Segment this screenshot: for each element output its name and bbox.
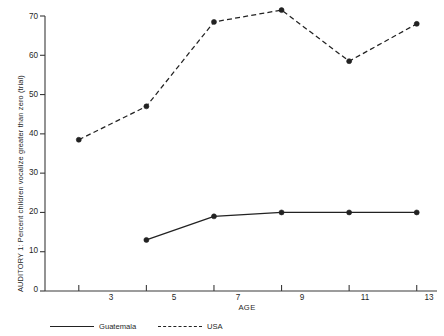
data-point-guatemala-age-9	[279, 210, 284, 215]
y-tick-label-50: 50	[16, 90, 38, 99]
series-line-guatemala	[144, 210, 419, 243]
legend-label-guatemala: Guatemala	[99, 322, 136, 331]
y-tick-label-10: 10	[16, 246, 38, 255]
legend-swatch-solid-icon	[50, 326, 94, 327]
y-tick-label-40: 40	[16, 129, 38, 138]
data-point-usa-age-7	[211, 19, 216, 24]
data-point-guatemala-age-5	[144, 237, 149, 242]
data-point-guatemala-age-11	[347, 210, 352, 215]
y-tick-label-30: 30	[16, 168, 38, 177]
y-axis-label: AUDITORY 1: Percent children vocalize gr…	[16, 75, 25, 292]
y-axis-ticks	[40, 16, 45, 291]
y-tick-label-60: 60	[16, 51, 38, 60]
y-axis-label-area: AUDITORY 1: Percent children vocalize gr…	[0, 0, 24, 300]
x-tick-label-7: 7	[228, 293, 248, 302]
data-point-guatemala-age-7	[211, 214, 216, 219]
data-point-usa-age-11	[347, 59, 352, 64]
legend-swatch-dashed-icon	[158, 326, 202, 327]
legend-item-usa[interactable]: USA	[158, 320, 223, 332]
x-tick-label-5: 5	[164, 293, 184, 302]
axis-lines	[45, 16, 437, 291]
data-point-usa-age-5	[144, 104, 149, 109]
data-point-usa-age-13	[414, 21, 419, 26]
chart-legend: Guatemala USA	[40, 320, 420, 334]
data-point-guatemala-age-13	[414, 210, 419, 215]
line-path-usa	[79, 10, 417, 140]
plot-area	[0, 0, 444, 336]
x-tick-label-11: 11	[355, 293, 375, 302]
x-axis-label: AGE	[217, 303, 277, 312]
line-path-guatemala	[146, 212, 416, 240]
data-point-usa-age-9	[279, 8, 284, 13]
y-tick-label-70: 70	[16, 12, 38, 21]
legend-item-guatemala[interactable]: Guatemala	[50, 320, 136, 332]
series-line-usa	[76, 8, 419, 143]
x-tick-label-13: 13	[419, 293, 439, 302]
y-tick-label-20: 20	[16, 207, 38, 216]
chart-container: AUDITORY 1: Percent children vocalize gr…	[0, 0, 444, 336]
x-tick-label-9: 9	[292, 293, 312, 302]
x-axis-ticks	[79, 285, 417, 291]
data-point-usa-age-3	[76, 137, 81, 142]
x-tick-label-3: 3	[101, 293, 121, 302]
legend-label-usa: USA	[207, 322, 223, 331]
y-tick-label-0: 0	[16, 285, 38, 294]
